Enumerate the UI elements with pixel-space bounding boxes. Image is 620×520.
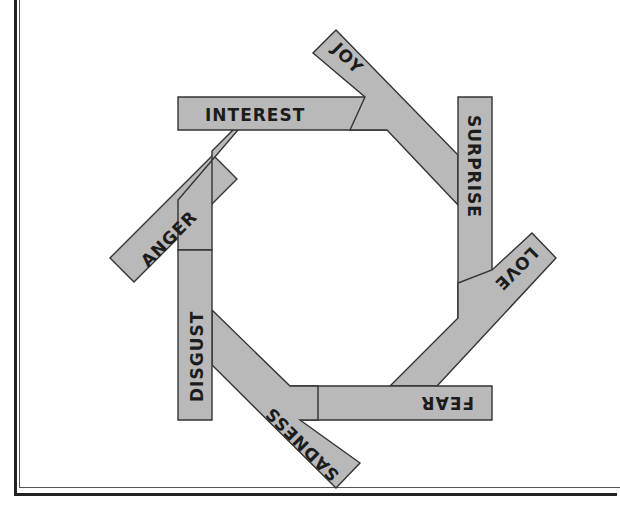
label-disgust: DISGUST (187, 311, 207, 402)
label-fear: FEAR (421, 393, 474, 413)
label-surprise: SURPRISE (464, 115, 484, 218)
label-interest: INTEREST (205, 105, 305, 125)
